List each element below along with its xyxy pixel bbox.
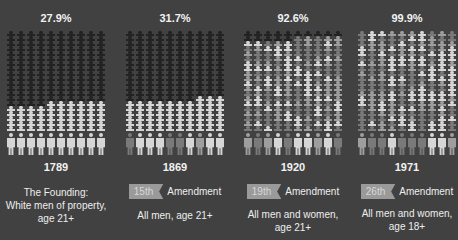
person-figure-icon — [263, 133, 273, 155]
person-figure-icon — [397, 133, 407, 155]
person-figure-icon — [357, 133, 367, 155]
person-figure-icon — [46, 133, 56, 155]
person-icon — [96, 126, 106, 131]
person-figure-icon — [253, 133, 263, 155]
year-label: 1920 — [239, 161, 347, 173]
person-figure-icon — [185, 133, 195, 155]
person-icon — [205, 126, 215, 131]
person-figure-icon — [407, 133, 417, 155]
person-figure-icon — [447, 133, 457, 155]
icon-grid — [125, 31, 225, 131]
person-icon — [333, 126, 343, 131]
person-icon — [165, 126, 175, 131]
icon-grid — [243, 31, 343, 131]
amendment-badge: 26th — [361, 184, 395, 199]
amendment-badge: 15th — [129, 184, 163, 199]
panel-1869: 31.7% 1869 15th Amendment All men, age 2… — [121, 0, 229, 240]
caption-line: All men and women, — [233, 208, 353, 221]
person-icon — [387, 126, 397, 131]
person-figure-icon — [135, 133, 145, 155]
person-icon — [283, 126, 293, 131]
person-icon — [417, 126, 427, 131]
person-icon — [16, 126, 26, 131]
year-label: 1869 — [121, 161, 229, 173]
person-figure-icon — [155, 133, 165, 155]
person-figure-icon — [6, 133, 16, 155]
person-icon — [215, 126, 225, 131]
person-icon — [273, 126, 283, 131]
person-icon — [6, 126, 16, 131]
caption-line: White men of property, — [0, 199, 116, 212]
caption-line: age 18+ — [347, 220, 458, 233]
person-icon — [323, 126, 333, 131]
person-figure-icon — [333, 133, 343, 155]
panel-1971: 99.9% 1971 26th Amendment All men and wo… — [353, 0, 458, 240]
person-icon — [175, 126, 185, 131]
person-icon — [76, 126, 86, 131]
person-figure-icon — [16, 133, 26, 155]
person-figure-icon — [195, 133, 205, 155]
person-icon — [303, 126, 313, 131]
caption-line: The Founding: — [0, 186, 116, 199]
person-figure-icon — [96, 133, 106, 155]
year-label: 1789 — [2, 161, 110, 173]
amendment-tag: 26th Amendment — [353, 184, 458, 199]
person-icon — [437, 126, 447, 131]
person-icon — [397, 126, 407, 131]
person-figure-icon — [205, 133, 215, 155]
amendment-tag: 15th Amendment — [121, 184, 229, 199]
person-figure-icon — [303, 133, 313, 155]
person-figure-icon — [165, 133, 175, 155]
figure-row — [6, 133, 106, 155]
person-icon — [313, 126, 323, 131]
person-figure-icon — [323, 133, 333, 155]
person-figure-icon — [377, 133, 387, 155]
caption-line: All men and women, — [347, 207, 458, 220]
person-icon — [243, 126, 253, 131]
person-figure-icon — [313, 133, 323, 155]
caption-line: age 21+ — [233, 221, 353, 234]
person-figure-icon — [145, 133, 155, 155]
person-figure-icon — [437, 133, 447, 155]
person-icon — [427, 126, 437, 131]
person-icon — [26, 126, 36, 131]
person-icon — [447, 126, 457, 131]
caption: All men, age 21+ — [115, 209, 235, 222]
amendment-label: Amendment — [285, 186, 339, 197]
caption-line: age 21+ — [0, 212, 116, 225]
percent-label: 27.9% — [2, 12, 110, 24]
person-icon — [377, 126, 387, 131]
caption: All men and women, age 21+ — [233, 208, 353, 234]
person-figure-icon — [427, 133, 437, 155]
person-icon — [145, 126, 155, 131]
person-figure-icon — [26, 133, 36, 155]
icon-grid — [6, 31, 106, 131]
person-icon — [125, 126, 135, 131]
panel-1920: 92.6% 1920 19th Amendment All men and wo… — [239, 0, 347, 240]
person-figure-icon — [293, 133, 303, 155]
person-icon — [185, 126, 195, 131]
amendment-badge: 19th — [247, 184, 281, 199]
caption: All men and women, age 18+ — [347, 207, 458, 233]
person-icon — [367, 126, 377, 131]
person-figure-icon — [367, 133, 377, 155]
caption-line: All men, age 21+ — [115, 209, 235, 222]
person-figure-icon — [86, 133, 96, 155]
percent-label: 92.6% — [239, 12, 347, 24]
person-icon — [357, 126, 367, 131]
person-figure-icon — [76, 133, 86, 155]
person-icon — [407, 126, 417, 131]
person-figure-icon — [417, 133, 427, 155]
percent-label: 99.9% — [353, 12, 458, 24]
person-figure-icon — [283, 133, 293, 155]
person-icon — [253, 126, 263, 131]
panel-1789: 27.9% 1789 The Founding: White men of pr… — [2, 0, 110, 240]
person-figure-icon — [273, 133, 283, 155]
person-icon — [66, 126, 76, 131]
person-icon — [135, 126, 145, 131]
person-icon — [293, 126, 303, 131]
person-icon — [56, 126, 66, 131]
person-figure-icon — [66, 133, 76, 155]
figure-row — [125, 133, 225, 155]
person-icon — [36, 126, 46, 131]
